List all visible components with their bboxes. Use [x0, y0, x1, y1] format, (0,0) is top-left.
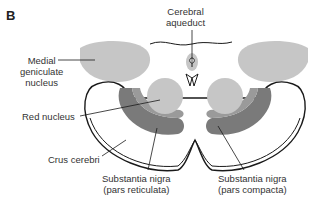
label-sn-compacta: Substantia nigra (pars compacta) [218, 173, 287, 195]
label-sn-reticulata: Substantia nigra (pars reticulata) [102, 173, 171, 195]
label-red-nucleus: Red nucleus [22, 111, 75, 122]
label-cerebral-aqueduct: Cerebral aqueduct [166, 6, 205, 28]
medial-geniculate-left [80, 41, 150, 82]
medial-geniculate-right [238, 41, 308, 82]
peduncle-outline [85, 82, 305, 171]
oculomotor-nucleus-icon [186, 74, 198, 86]
label-crus-cerebri: Crus cerebri [48, 154, 100, 165]
label-medial-geniculate: Medial geniculate nucleus [20, 55, 63, 88]
red-nucleus-right [207, 78, 243, 114]
red-nucleus-left [147, 78, 183, 114]
tectum-line [150, 42, 232, 45]
